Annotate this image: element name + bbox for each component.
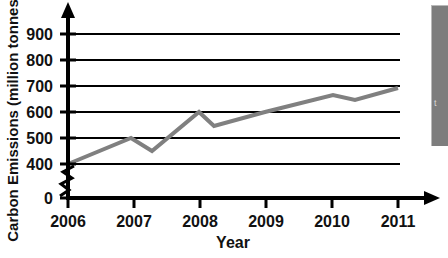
y-tick-label-400: 400 xyxy=(26,156,53,173)
x-axis xyxy=(66,191,440,208)
y-tick-label-0: 0 xyxy=(44,190,53,207)
x-tick-label-2010: 2010 xyxy=(314,213,350,230)
y-tick-label-800: 800 xyxy=(26,52,53,69)
y-tick-label-900: 900 xyxy=(26,26,53,43)
x-axis-title: Year xyxy=(216,234,250,251)
y-axis-break-icon xyxy=(60,166,74,196)
x-axis-arrow-icon xyxy=(424,191,440,205)
y-axis-title: Carbon Emissions (million tonnes) xyxy=(4,0,21,242)
x-tick-label-2011: 2011 xyxy=(381,213,416,230)
y-tick-label-700: 700 xyxy=(26,78,53,95)
x-tick-label-2007: 2007 xyxy=(116,213,152,230)
right-side-panel: t xyxy=(431,5,448,146)
y-tick-label-600: 600 xyxy=(26,104,53,121)
y-axis-arrow-icon xyxy=(61,2,75,18)
y-axis xyxy=(60,2,76,198)
y-tick-label-500: 500 xyxy=(26,130,53,147)
x-tick-label-2009: 2009 xyxy=(248,213,284,230)
x-tick-label-2008: 2008 xyxy=(182,213,218,230)
data-series-line xyxy=(68,88,398,164)
x-tick-labels: 2006 2007 2008 2009 2010 2011 xyxy=(50,213,415,230)
y-tick-labels: 900 800 700 600 500 400 0 xyxy=(26,26,53,207)
side-panel-label: t xyxy=(434,98,437,108)
x-tick-label-2006: 2006 xyxy=(50,213,86,230)
